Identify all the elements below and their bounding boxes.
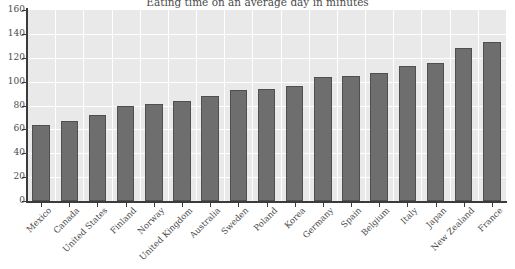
bar <box>201 96 218 201</box>
bar-chart-figure: Eating time on an average day in minutes… <box>0 0 515 269</box>
bar <box>173 101 190 201</box>
bar <box>314 77 331 201</box>
y-axis-line <box>26 8 28 203</box>
bar <box>342 76 359 201</box>
chart-title: Eating time on an average day in minutes <box>0 0 515 8</box>
bar <box>89 115 106 201</box>
bar <box>370 73 387 201</box>
bar <box>483 42 500 201</box>
bar <box>32 125 49 201</box>
y-axis-tick-labels: 020406080100120140160 <box>0 0 25 269</box>
bar <box>427 63 444 201</box>
x-axis-tick-labels: MexicoCanadaUnited StatesFinlandNorwayUn… <box>27 206 506 269</box>
bar <box>399 66 416 201</box>
bar <box>258 89 275 201</box>
bar <box>145 104 162 201</box>
bar <box>61 121 78 201</box>
bar <box>455 48 472 201</box>
bar <box>230 90 247 201</box>
bar-series <box>27 10 506 201</box>
plot-area <box>27 10 506 201</box>
bar <box>117 106 134 202</box>
bar <box>286 86 303 201</box>
